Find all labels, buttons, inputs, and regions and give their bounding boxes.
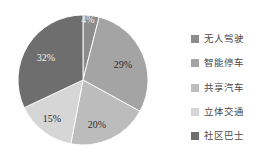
legend-swatch xyxy=(191,35,199,43)
legend-label: 立体交通 xyxy=(204,107,244,117)
pie-chart: 4% 29% 20% 15% 32% 无人驾驶 智能停车 共享汽车 立体交通 社… xyxy=(0,0,258,159)
legend-label: 共享汽车 xyxy=(204,83,244,93)
pie-label-multilevel-transport: 15% xyxy=(43,113,61,124)
legend-swatch xyxy=(191,84,199,92)
legend-item-autonomous-driving: 无人驾驶 xyxy=(191,34,244,44)
legend-label: 智能停车 xyxy=(204,58,244,68)
pie-label-community-bus: 32% xyxy=(37,52,55,63)
pie-plot-area: 4% 29% 20% 15% 32% xyxy=(0,0,190,159)
pie-label-smart-parking: 29% xyxy=(114,59,132,70)
legend-swatch xyxy=(191,108,199,116)
legend-item-multilevel-transport: 立体交通 xyxy=(191,107,244,117)
legend-item-smart-parking: 智能停车 xyxy=(191,58,244,68)
chart-legend: 无人驾驶 智能停车 共享汽车 立体交通 社区巴士 xyxy=(191,0,258,159)
legend-swatch xyxy=(191,59,199,67)
pie-label-autonomous-driving: 4% xyxy=(81,14,94,25)
legend-item-community-bus: 社区巴士 xyxy=(191,131,244,141)
legend-label: 社区巴士 xyxy=(204,131,244,141)
legend-swatch xyxy=(191,132,199,140)
legend-item-car-sharing: 共享汽车 xyxy=(191,83,244,93)
pie-label-car-sharing: 20% xyxy=(88,119,106,130)
legend-label: 无人驾驶 xyxy=(204,34,244,44)
